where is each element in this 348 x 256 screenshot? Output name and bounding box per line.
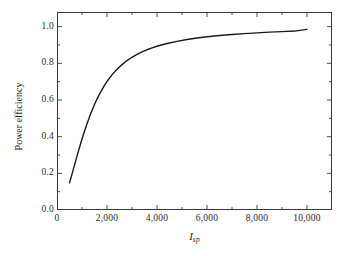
y-axis-tick-label: 0.8: [10, 58, 54, 68]
x-axis-title: Isp: [57, 230, 332, 242]
x-axis-tick-labels: 02,0004,0006,0008,00010,000: [0, 214, 348, 228]
x-axis-title-subscript: sp: [193, 235, 200, 244]
x-axis-tick-label: 0: [55, 214, 60, 224]
x-axis-tick-label: 8,000: [246, 214, 268, 224]
x-axis-tick-label: 10,000: [293, 214, 320, 224]
x-axis-tick-label: 2,000: [96, 214, 118, 224]
x-axis-tick-label: 6,000: [196, 214, 218, 224]
x-axis-tick-marks: [57, 12, 332, 210]
x-axis-tick-label: 4,000: [146, 214, 168, 224]
y-axis-tick-marks: [57, 27, 332, 210]
y-axis-tick-label: 0.4: [10, 132, 54, 142]
chart-figure: Power efficiency 0.00.20.40.60.81.0 02,0…: [0, 0, 348, 256]
y-axis-tick-label: 0.6: [10, 95, 54, 105]
chart-canvas: [57, 12, 332, 210]
y-axis-tick-label: 1.0: [10, 22, 54, 32]
y-axis-tick-label: 0.2: [10, 168, 54, 178]
data-series-line: [70, 29, 308, 182]
